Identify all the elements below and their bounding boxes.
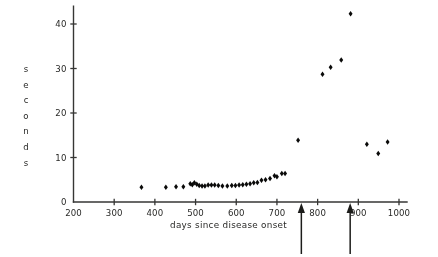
data-point — [225, 183, 229, 189]
y-axis-title-char-5: d — [23, 142, 28, 152]
x-tick-label-800: 800 — [309, 208, 326, 218]
data-point — [259, 177, 263, 183]
x-tick-label-400: 400 — [147, 208, 164, 218]
annotation-arrow-head-0 — [298, 203, 305, 213]
data-point — [339, 57, 343, 63]
y-axis-title-char-6: s — [24, 158, 29, 168]
y-axis-title-char-3: o — [23, 111, 28, 121]
data-point — [349, 11, 353, 17]
data-point — [203, 183, 207, 189]
data-point — [386, 139, 390, 145]
data-point — [174, 184, 178, 190]
plot-canvas: 010203040 2003004005006007008009001000 s… — [0, 0, 438, 257]
y-axis-title-char-2: c — [24, 95, 29, 105]
x-tick-label-600: 600 — [228, 208, 245, 218]
x-tick-label-500: 500 — [187, 208, 204, 218]
data-point — [241, 182, 245, 188]
data-point — [139, 185, 143, 191]
data-point — [329, 64, 333, 70]
x-tick-label-700: 700 — [269, 208, 286, 218]
x-axis: 2003004005006007008009001000 — [65, 199, 410, 218]
data-point — [216, 183, 220, 189]
data-point — [230, 183, 234, 189]
data-point — [296, 137, 300, 143]
y-tick-label-10: 10 — [55, 153, 66, 163]
data-point — [233, 183, 237, 189]
data-point — [268, 176, 272, 182]
data-point — [264, 177, 268, 183]
y-axis-title-char-4: n — [23, 126, 28, 136]
x-tick-label-200: 200 — [65, 208, 82, 218]
data-point — [283, 171, 287, 177]
data-point — [365, 141, 369, 147]
x-axis-title-label: days since disease onset — [170, 220, 287, 230]
data-point — [252, 180, 256, 186]
y-tick-label-20: 20 — [55, 108, 66, 118]
data-point — [213, 182, 217, 188]
y-tick-label-30: 30 — [55, 64, 66, 74]
x-tick-label-1000: 1000 — [388, 208, 410, 218]
y-axis-title: seconds — [23, 64, 28, 168]
data-point — [181, 184, 185, 190]
data-point — [248, 181, 252, 187]
y-tick-label-40: 40 — [55, 19, 66, 29]
scatter-plot-figure: 010203040 2003004005006007008009001000 s… — [0, 0, 438, 257]
data-point — [164, 185, 168, 191]
x-tick-label-300: 300 — [106, 208, 123, 218]
y-axis-tick-labels: 010203040 — [55, 19, 66, 207]
data-point — [255, 180, 259, 186]
data-point — [244, 181, 248, 187]
y-axis-title-char-0: s — [24, 64, 29, 74]
data-point — [376, 151, 380, 157]
x-axis-tick-labels: 2003004005006007008009001000 — [65, 208, 410, 218]
data-point — [321, 72, 325, 78]
data-point — [220, 183, 224, 189]
data-point — [237, 182, 241, 188]
y-axis-title-char-1: e — [23, 80, 28, 90]
data-points — [139, 11, 389, 190]
y-tick-label-0: 0 — [61, 197, 67, 207]
y-axis: 010203040 — [55, 6, 76, 207]
